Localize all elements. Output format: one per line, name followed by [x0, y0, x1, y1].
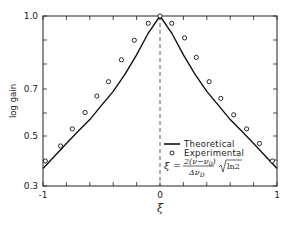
experimental-point: [245, 127, 249, 131]
y-tick-label-0.3: 0.3: [24, 181, 38, 191]
y-tick-label-1.0: 1.0: [24, 11, 39, 21]
experimental-point: [146, 21, 150, 25]
formula-sqrt-content: ln2: [227, 162, 240, 171]
experimental-point: [183, 36, 187, 40]
x-tick-label-0: 0: [157, 190, 163, 200]
formula-numerator: 2(ν−ν0): [183, 157, 216, 167]
y-tick-label-0.5: 0.5: [24, 131, 38, 141]
experimental-points: [43, 14, 274, 163]
experimental-point: [43, 159, 47, 163]
experimental-point: [257, 141, 261, 145]
experimental-point: [270, 159, 274, 163]
log-gain-chart: 1.0 0.7 0.5 0.3 -1 0 1 log gain ξ Theore…: [0, 0, 288, 227]
experimental-point: [59, 144, 63, 148]
experimental-point: [158, 14, 162, 18]
formula-lhs: ξ =: [164, 160, 181, 171]
experimental-point: [95, 94, 99, 98]
legend: Theoretical Experimental ξ = 2(ν−ν0) ΔνD…: [164, 139, 244, 178]
experimental-point: [207, 80, 211, 84]
experimental-point: [219, 96, 223, 100]
experimental-point: [106, 80, 110, 84]
experimental-point: [119, 58, 123, 62]
experimental-point: [194, 55, 198, 59]
formula-denominator: ΔνD: [188, 168, 205, 178]
y-tick-label-0.7: 0.7: [24, 84, 38, 94]
y-axis-title: log gain: [8, 84, 18, 118]
experimental-point: [170, 21, 174, 25]
x-tick-label-1: 1: [274, 190, 280, 200]
x-axis-title: ξ: [157, 202, 164, 215]
experimental-point: [132, 38, 136, 42]
experimental-point: [83, 110, 87, 114]
legend-circle-swatch: [170, 151, 174, 155]
x-tick-label-neg1: -1: [39, 190, 48, 200]
experimental-point: [232, 113, 236, 117]
experimental-point: [70, 127, 74, 131]
